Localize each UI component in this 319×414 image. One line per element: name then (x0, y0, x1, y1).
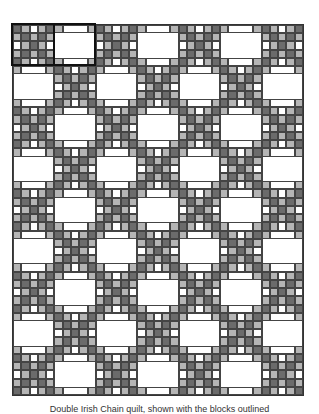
patch-square (88, 157, 96, 165)
patch-square (13, 305, 21, 313)
chain-block (220, 313, 261, 354)
patch-square (21, 25, 29, 33)
background-patch (262, 239, 303, 264)
patch-square (46, 379, 54, 387)
patch-square (170, 329, 178, 337)
patch-square (71, 99, 79, 107)
chain-block (96, 272, 137, 313)
patch-square (162, 337, 170, 345)
patch-square (63, 66, 71, 74)
patch-square (245, 247, 253, 255)
corner-square (46, 231, 54, 239)
patch-square (295, 354, 303, 362)
patch-square (228, 181, 236, 189)
corner-square (54, 140, 62, 148)
patch-square (278, 124, 286, 132)
patch-square (295, 50, 303, 58)
patch-square (30, 33, 38, 41)
patch-square (104, 115, 112, 123)
patch-square (262, 25, 270, 33)
corner-square (54, 305, 62, 313)
corner-square (129, 148, 137, 156)
patch-square (46, 140, 54, 148)
patch-square (228, 66, 236, 74)
patch-square (212, 214, 220, 222)
patch-square (286, 362, 294, 370)
patch-square (286, 387, 294, 395)
patch-square (63, 157, 71, 165)
patch-square (146, 247, 154, 255)
patch-square (295, 362, 303, 370)
patch-square (129, 115, 137, 123)
patch-square (129, 33, 137, 41)
patch-square (63, 313, 71, 321)
chain-block (262, 25, 303, 66)
patch-square (154, 247, 162, 255)
patch-square (137, 255, 145, 263)
patch-square (220, 91, 228, 99)
patch-square (245, 99, 253, 107)
patch-square (129, 288, 137, 296)
patch-square (63, 91, 71, 99)
patch-square (137, 83, 145, 91)
patch-square (38, 222, 46, 230)
background-patch (63, 107, 88, 115)
patch-square (21, 305, 29, 313)
patch-square (179, 115, 187, 123)
patch-square (137, 337, 145, 345)
patch-square (286, 354, 294, 362)
background-patch (187, 66, 212, 74)
patch-square (295, 280, 303, 288)
patch-square (228, 91, 236, 99)
patch-square (278, 272, 286, 280)
patch-square (162, 247, 170, 255)
patch-square (204, 58, 212, 66)
patch-square (270, 140, 278, 148)
background-patch (21, 231, 46, 239)
patch-square (187, 370, 195, 378)
corner-square (96, 66, 104, 74)
patch-square (46, 280, 54, 288)
chain-block (220, 66, 261, 107)
patch-square (21, 198, 29, 206)
patch-square (170, 247, 178, 255)
patch-square (220, 346, 228, 354)
patch-square (96, 58, 104, 66)
corner-square (212, 99, 220, 107)
patch-square (237, 239, 245, 247)
background-patch (228, 58, 253, 66)
patch-square (46, 124, 54, 132)
patch-square (13, 370, 21, 378)
patch-square (112, 296, 120, 304)
patch-square (237, 165, 245, 173)
patch-square (21, 354, 29, 362)
patch-square (187, 58, 195, 66)
corner-square (137, 140, 145, 148)
chain-block (179, 25, 220, 66)
patch-square (253, 346, 261, 354)
patch-square (262, 214, 270, 222)
patch-square (237, 66, 245, 74)
background-patch (96, 74, 137, 99)
patch-square (270, 354, 278, 362)
patch-square (212, 280, 220, 288)
patch-square (54, 263, 62, 271)
patch-square (212, 362, 220, 370)
patch-square (21, 140, 29, 148)
patch-square (13, 288, 21, 296)
patch-square (179, 305, 187, 313)
patch-square (187, 115, 195, 123)
patch-square (146, 329, 154, 337)
patch-square (63, 74, 71, 82)
patch-square (253, 83, 261, 91)
patch-square (170, 66, 178, 74)
chain-block (96, 25, 137, 66)
patch-square (195, 370, 203, 378)
patch-square (162, 231, 170, 239)
patch-square (278, 107, 286, 115)
patch-square (237, 181, 245, 189)
patch-square (146, 181, 154, 189)
patch-square (21, 107, 29, 115)
patch-square (262, 198, 270, 206)
patch-square (228, 255, 236, 263)
